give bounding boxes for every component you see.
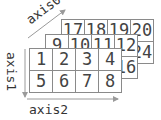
array-cell: 6 [53, 71, 76, 93]
array-diagram: 17 18 19 20 21 22 23 24 9 10 11 12 13 14… [0, 0, 161, 120]
array-cell: 8 [99, 71, 122, 93]
array-cell: 7 [76, 71, 99, 93]
axis2-label: axis2 [29, 103, 68, 116]
axis1-label: axis1 [5, 52, 18, 91]
array-cell: 5 [30, 71, 53, 93]
array-cell: 3 [76, 49, 99, 71]
array-cell: 1 [30, 49, 53, 71]
array-cell: 4 [99, 49, 122, 71]
array-cell: 2 [53, 49, 76, 71]
layer-front-grid: 1 2 3 4 5 6 7 8 [29, 48, 122, 93]
